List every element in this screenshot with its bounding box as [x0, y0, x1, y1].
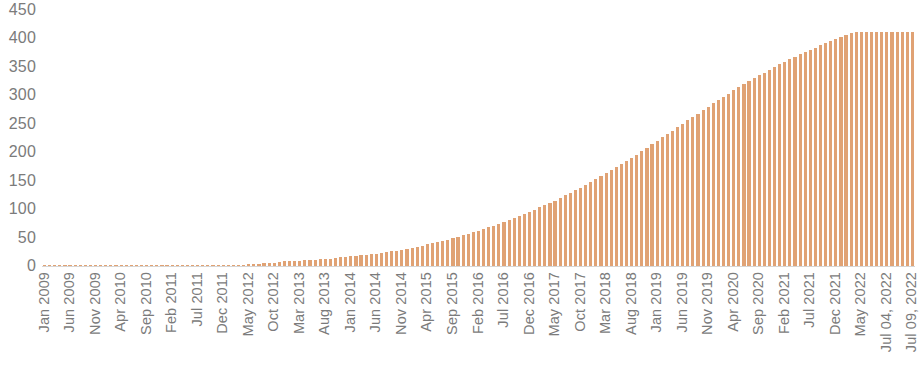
plot-area	[42, 10, 915, 266]
bar	[804, 52, 807, 266]
bar	[462, 235, 465, 266]
bar	[819, 45, 822, 266]
x-axis-tick-label: Nov 2014	[394, 272, 409, 335]
bar	[727, 94, 730, 266]
x-axis-tick-label: Jul 2011	[190, 272, 205, 327]
bar	[385, 252, 388, 266]
bar	[645, 148, 648, 266]
bar	[553, 201, 556, 266]
bar	[717, 100, 720, 266]
bar	[666, 134, 669, 266]
bar	[446, 240, 449, 266]
bar	[344, 257, 347, 266]
bar	[390, 251, 393, 266]
y-axis-tick-label: 250	[9, 116, 36, 132]
bar	[533, 210, 536, 266]
bar	[860, 32, 863, 266]
bar	[620, 164, 623, 266]
bar	[559, 198, 562, 266]
bar	[676, 127, 679, 266]
x-axis-tick-label: May 2017	[547, 272, 562, 336]
bar	[518, 216, 521, 266]
bar	[829, 41, 832, 266]
bar	[809, 50, 812, 266]
bar	[880, 32, 883, 266]
bar	[564, 195, 567, 266]
bar	[584, 185, 587, 266]
bar	[747, 81, 750, 266]
bar	[472, 232, 475, 266]
bar	[380, 253, 383, 266]
bar	[799, 54, 802, 266]
x-axis-tick-label: Jan 2014	[343, 272, 358, 332]
bar	[906, 32, 909, 266]
bar	[334, 258, 337, 266]
bar	[594, 179, 597, 266]
bar	[436, 242, 439, 266]
bar	[640, 151, 643, 266]
x-axis-tick-label: Jan 2019	[649, 272, 664, 332]
bar	[875, 32, 878, 266]
bar	[839, 37, 842, 266]
bar	[737, 87, 740, 266]
x-axis-tick-label: Mar 2018	[598, 272, 613, 334]
bar	[834, 39, 837, 266]
bar	[901, 32, 904, 266]
bar	[487, 227, 490, 266]
bar	[758, 75, 761, 266]
bar	[671, 131, 674, 266]
x-axis-tick-label: Feb 2011	[164, 272, 179, 333]
bar	[574, 190, 577, 266]
y-axis-tick-label: 0	[27, 258, 36, 274]
x-axis-tick-label: Dec 2011	[215, 272, 230, 334]
y-axis-tick-label: 200	[9, 144, 36, 160]
bar	[349, 256, 352, 266]
bar	[650, 144, 653, 266]
x-axis-tick-label: Apr 2010	[113, 272, 128, 332]
bar	[502, 222, 505, 266]
y-axis-tick-label: 150	[9, 173, 36, 189]
bar	[528, 212, 531, 266]
x-axis-tick-label: Jun 2019	[675, 272, 690, 332]
y-axis-tick-label: 300	[9, 87, 36, 103]
y-axis-tick-label: 350	[9, 59, 36, 75]
x-axis-tick-label: Apr 2015	[419, 272, 434, 332]
bar	[615, 167, 618, 266]
bar	[354, 256, 357, 266]
axis-baseline	[42, 266, 915, 267]
bar	[411, 248, 414, 266]
bar-chart: 450400350300250200150100500 Jan 2009Jun …	[0, 0, 919, 374]
bar	[589, 182, 592, 266]
bar	[702, 110, 705, 266]
bar	[375, 254, 378, 267]
bar	[400, 250, 403, 266]
bar	[538, 207, 541, 266]
x-axis-tick-label: Dec 2016	[522, 272, 537, 335]
bar	[635, 155, 638, 267]
x-axis-tick-label: Feb 2021	[777, 272, 792, 334]
x-axis-tick-label: Jul 09, 2022	[904, 272, 919, 352]
bar	[441, 241, 444, 266]
bar	[405, 249, 408, 266]
x-axis-tick-label: Jul 04, 2022	[879, 272, 894, 352]
bar	[850, 33, 853, 266]
bar	[492, 226, 495, 266]
y-axis-tick-label: 50	[18, 230, 36, 246]
x-axis-tick-label: Jun 2009	[62, 272, 77, 332]
bar	[426, 244, 429, 266]
bar	[742, 84, 745, 266]
bar	[482, 229, 485, 266]
bar	[359, 255, 362, 266]
bar	[365, 255, 368, 266]
bar	[890, 32, 893, 266]
bar	[814, 48, 817, 266]
x-axis-tick-label: Jul 2021	[802, 272, 817, 328]
bar	[625, 161, 628, 266]
bar	[783, 62, 786, 266]
x-axis-tick-label: Sep 2020	[751, 272, 766, 335]
bar	[451, 238, 454, 266]
y-axis-tick-label: 100	[9, 201, 36, 217]
bar	[722, 97, 725, 266]
bar	[691, 117, 694, 266]
bar	[865, 32, 868, 266]
